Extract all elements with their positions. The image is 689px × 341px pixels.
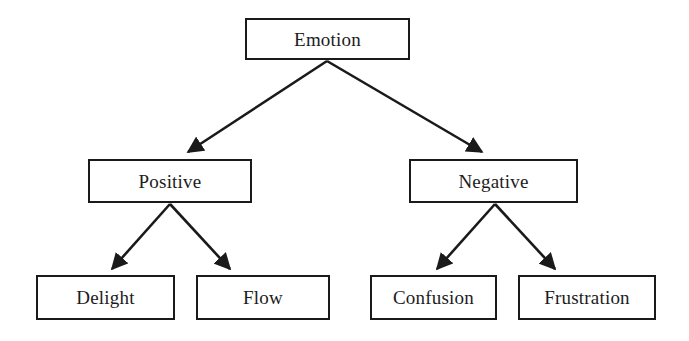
node-negative-label: Negative: [458, 172, 528, 191]
node-emotion: Emotion: [245, 18, 410, 60]
edge-emotion-positive: [188, 61, 327, 152]
node-delight: Delight: [36, 275, 175, 320]
node-frustration-label: Frustration: [544, 288, 630, 307]
edge-positive-delight: [112, 204, 170, 269]
node-frustration: Frustration: [518, 275, 656, 320]
edge-negative-frustration: [495, 204, 555, 269]
node-positive-label: Positive: [139, 172, 202, 191]
node-confusion-label: Confusion: [393, 288, 474, 307]
diagram-canvas: Emotion Positive Negative Delight Flow C…: [0, 0, 689, 341]
edge-emotion-negative: [327, 61, 482, 152]
node-positive: Positive: [88, 159, 252, 203]
edge-positive-flow: [170, 204, 230, 269]
node-flow: Flow: [196, 275, 330, 320]
node-flow-label: Flow: [243, 288, 283, 307]
node-emotion-label: Emotion: [294, 30, 361, 49]
node-negative: Negative: [409, 159, 578, 203]
edge-negative-confusion: [437, 204, 495, 269]
node-delight-label: Delight: [76, 288, 134, 307]
node-confusion: Confusion: [370, 275, 497, 320]
